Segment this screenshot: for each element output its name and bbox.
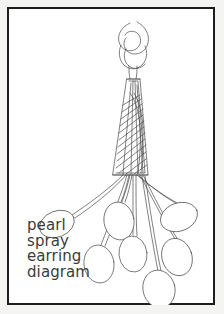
ear-wire-loop-icon [119, 22, 149, 79]
screenshot-root: pearl spray earring diagram [0, 0, 224, 314]
cone-body-shape [113, 79, 148, 175]
caption-block: pearl spray earring diagram [27, 218, 137, 280]
pearl-bead [156, 197, 201, 236]
caption-line-4: diagram [27, 265, 137, 281]
